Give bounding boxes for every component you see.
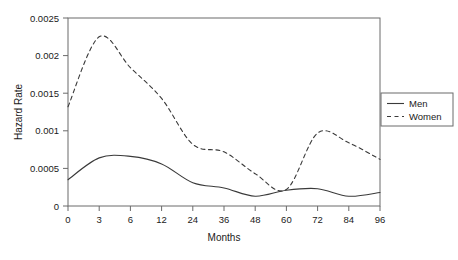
legend-label-men: Men <box>409 98 427 109</box>
x-tick-label: 3 <box>97 214 102 225</box>
chart-legend: Men Women <box>381 93 453 126</box>
y-axis-ticks <box>63 18 68 206</box>
y-tick-label: 0.0025 <box>30 13 59 24</box>
hazard-rate-line-chart: 0.0025 0.002 0.0015 0.001 0.0005 0 Hazar… <box>0 0 458 260</box>
y-tick-label: 0.001 <box>35 125 59 136</box>
y-tick-label: 0.0015 <box>30 88 59 99</box>
y-axis-title: Hazard Rate <box>13 83 24 140</box>
series-line-men <box>68 155 380 196</box>
x-tick-label: 96 <box>375 214 386 225</box>
y-tick-label: 0 <box>54 201 59 212</box>
y-tick-label: 0.0005 <box>30 163 59 174</box>
x-tick-label: 60 <box>281 214 292 225</box>
legend-label-women: Women <box>409 111 442 122</box>
x-axis-ticks <box>68 206 380 211</box>
series-line-women <box>68 36 380 191</box>
x-tick-label: 72 <box>312 214 323 225</box>
x-tick-label: 36 <box>219 214 230 225</box>
chart-figure: 0.0025 0.002 0.0015 0.001 0.0005 0 Hazar… <box>0 0 458 260</box>
x-axis-tick-labels: 0 3 6 12 24 36 48 60 72 84 96 <box>65 214 385 225</box>
x-tick-label: 0 <box>65 214 70 225</box>
x-tick-label: 6 <box>128 214 133 225</box>
y-tick-label: 0.002 <box>35 50 59 61</box>
x-tick-label: 12 <box>156 214 167 225</box>
y-axis-tick-labels: 0.0025 0.002 0.0015 0.001 0.0005 0 <box>30 13 59 212</box>
x-tick-label: 84 <box>344 214 355 225</box>
x-tick-label: 48 <box>250 214 261 225</box>
x-axis-title: Months <box>208 232 241 243</box>
x-tick-label: 24 <box>188 214 199 225</box>
